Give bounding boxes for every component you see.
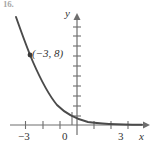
y-axis-arrowhead [74,13,81,20]
x-axis-arrowhead [143,122,150,129]
x-tick-label-negative-three: −3 [18,131,30,142]
exponential-decay-curve [16,17,142,125]
x-tick-label-three: 3 [118,131,124,142]
y-axis-label: y [65,8,70,19]
data-point-annotation-label: (−3, 8) [32,48,63,59]
exponential-graph-figure: 16. [0,0,153,153]
x-axis-label: x [139,131,144,142]
x-tick-label-zero: 0 [62,131,68,142]
